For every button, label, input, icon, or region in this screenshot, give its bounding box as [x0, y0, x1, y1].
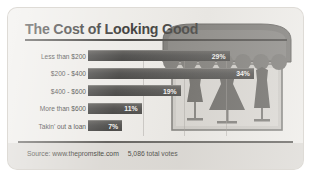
- bar-row: More than $60011%: [22, 103, 254, 114]
- infographic-card: The Cost of Looking Good Less than $2002…: [8, 8, 303, 169]
- bar-row: $200 - $40034%: [22, 68, 254, 79]
- bar-track: 34%: [88, 68, 254, 79]
- bar-chart: Less than $20029%$200 - $40034%$400 - $6…: [22, 50, 254, 136]
- bar-row: $400 - $60019%: [22, 85, 254, 96]
- bar-track: 11%: [88, 103, 254, 114]
- bar-track: 7%: [88, 120, 254, 131]
- bar: 11%: [88, 103, 142, 114]
- bar-value-label: 11%: [124, 105, 137, 112]
- bar-value-label: 19%: [163, 87, 177, 94]
- bar-category-label: $200 - $400: [51, 70, 86, 77]
- bar-category-label: Less than $200: [41, 52, 86, 59]
- page-title: The Cost of Looking Good: [25, 21, 198, 37]
- bar: 7%: [88, 120, 122, 131]
- bar-row: Less than $20029%: [22, 50, 254, 61]
- bar: 29%: [88, 50, 230, 61]
- bar-category-label: Takin' out a loan: [39, 122, 86, 129]
- bar: 34%: [88, 68, 254, 79]
- title-divider: [25, 39, 287, 41]
- total-votes: 5,086 total votes: [128, 150, 178, 157]
- footer-source: Source: www.thepromsite.com 5,086 total …: [27, 150, 178, 157]
- bar-track: 29%: [88, 50, 254, 61]
- bar-track: 19%: [88, 85, 254, 96]
- bar-category-label: $400 - $600: [51, 87, 86, 94]
- bar-value-label: 29%: [212, 52, 226, 59]
- bar-value-label: 7%: [108, 122, 118, 129]
- bar-category-label: More than $600: [40, 105, 86, 112]
- bar-row: Takin' out a loan7%: [22, 120, 254, 131]
- bar-value-label: 34%: [236, 70, 250, 77]
- source-label: Source: www.thepromsite.com: [27, 150, 119, 157]
- bar: 19%: [88, 85, 181, 96]
- footer-divider: [18, 141, 293, 143]
